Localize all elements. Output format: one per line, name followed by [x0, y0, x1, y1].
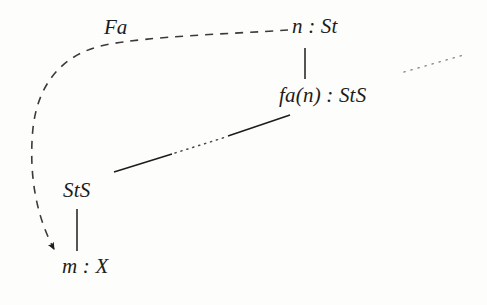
- edge-diagonal-dotted-gap: [175, 137, 226, 153]
- edge-dotted-stub: [404, 54, 467, 72]
- node-label-m-x: m : X: [62, 256, 109, 277]
- dashed-edge-Fa: [32, 30, 288, 249]
- edge-label-Fa: Fa: [102, 17, 129, 38]
- edge-diagonal-lower: [114, 154, 172, 172]
- edge-diagonal-upper: [228, 115, 290, 136]
- node-label-n-st: n : St: [292, 16, 338, 37]
- node-label-sts: StS: [63, 180, 90, 201]
- node-label-fa-n: fa(n) : StS: [279, 85, 366, 106]
- diagram-canvas: Fa n : St fa(n) : StS StS m : X: [0, 0, 487, 305]
